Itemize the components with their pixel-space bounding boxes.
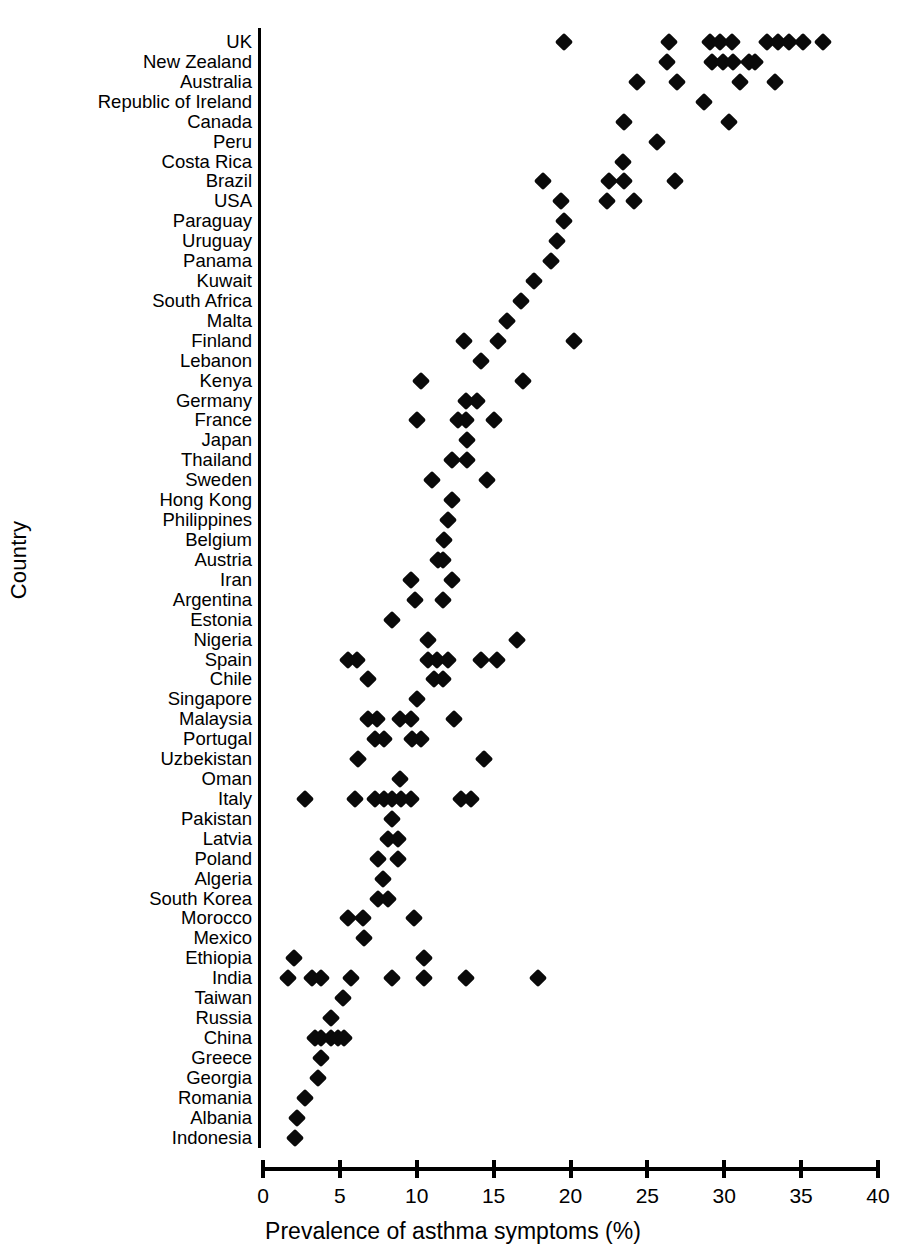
y-tick-label: Iran [0,571,252,590]
x-tick [569,1160,573,1178]
y-tick-label: USA [0,192,252,211]
y-tick-label: Portugal [0,730,252,749]
y-tick-label: Oman [0,770,252,789]
y-tick-label: Ethiopia [0,949,252,968]
y-tick-label: Spain [0,650,252,669]
y-tick-label: Argentina [0,591,252,610]
x-axis-title: Prevalence of asthma symptoms (%) [0,1218,906,1245]
y-tick-label: Belgium [0,531,252,550]
y-tick-label: Panama [0,252,252,271]
y-tick-label: Kuwait [0,272,252,291]
y-tick-label: Romania [0,1089,252,1108]
y-tick-label: Lebanon [0,351,252,370]
y-tick-label: Republic of Ireland [0,93,252,112]
y-tick-label: Russia [0,1009,252,1028]
y-tick-label: India [0,969,252,988]
x-tick [261,1160,265,1178]
y-tick-label: Hong Kong [0,491,252,510]
y-tick-label: Kenya [0,371,252,390]
y-tick-label: Brazil [0,172,252,191]
y-tick-label: New Zealand [0,53,252,72]
x-tick [876,1160,880,1178]
x-tick [492,1160,496,1178]
y-tick-label: Morocco [0,909,252,928]
x-tick [799,1160,803,1178]
y-tick-label: Georgia [0,1069,252,1088]
y-tick-label: Italy [0,790,252,809]
y-tick-label: Austria [0,551,252,570]
y-tick-label: China [0,1029,252,1048]
y-tick-label: Poland [0,849,252,868]
y-tick-label: Latvia [0,830,252,849]
y-tick-label: Indonesia [0,1128,252,1147]
x-tick-label: 0 [257,1184,269,1208]
x-tick [415,1160,419,1178]
y-tick-label: Estonia [0,610,252,629]
y-tick-label: Nigeria [0,630,252,649]
y-tick-label: Australia [0,73,252,92]
x-axis-line [263,1167,879,1171]
y-tick-label: Philippines [0,511,252,530]
x-tick [338,1160,342,1178]
y-tick-label: Costa Rica [0,152,252,171]
x-tick [645,1160,649,1178]
y-tick-label: Peru [0,132,252,151]
y-tick-label: Chile [0,670,252,689]
y-tick-label: Canada [0,112,252,131]
y-tick-label: Algeria [0,869,252,888]
y-tick-label: Thailand [0,451,252,470]
y-tick-label: Mexico [0,929,252,948]
y-tick-label: Finland [0,332,252,351]
y-tick-label: Uzbekistan [0,750,252,769]
y-tick-label: Greece [0,1049,252,1068]
x-tick-label: 20 [559,1184,582,1208]
y-tick-label: Germany [0,391,252,410]
y-tick-label: Uruguay [0,232,252,251]
x-tick [722,1160,726,1178]
y-tick-label: Albania [0,1108,252,1127]
y-tick-label: UK [0,33,252,52]
x-tick-label: 35 [789,1184,812,1208]
y-tick-label: Japan [0,431,252,450]
y-tick-label: Singapore [0,690,252,709]
x-tick-label: 30 [713,1184,736,1208]
chart-canvas: Country UKNew ZealandAustraliaRepublic o… [0,0,906,1257]
y-tick-label: Sweden [0,471,252,490]
y-tick-label: Malaysia [0,710,252,729]
y-tick-label: Pakistan [0,810,252,829]
y-tick-label: France [0,411,252,430]
x-tick-label: 25 [636,1184,659,1208]
y-tick-label: Paraguay [0,212,252,231]
x-tick-label: 5 [334,1184,346,1208]
x-tick-label: 15 [482,1184,505,1208]
y-tick-label: South Korea [0,889,252,908]
y-tick-label: South Africa [0,292,252,311]
x-tick-label: 40 [866,1184,889,1208]
y-tick-label: Taiwan [0,989,252,1008]
x-tick-label: 10 [405,1184,428,1208]
y-tick-label: Malta [0,312,252,331]
